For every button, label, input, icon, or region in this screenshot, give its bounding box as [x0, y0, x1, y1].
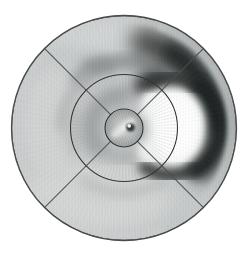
figure-canvas	[0, 0, 248, 254]
shading-layer	[0, 0, 246, 254]
bullseye-polar-map	[0, 0, 248, 254]
center-spot-highlight	[127, 124, 131, 128]
inner-swirl	[106, 110, 143, 147]
